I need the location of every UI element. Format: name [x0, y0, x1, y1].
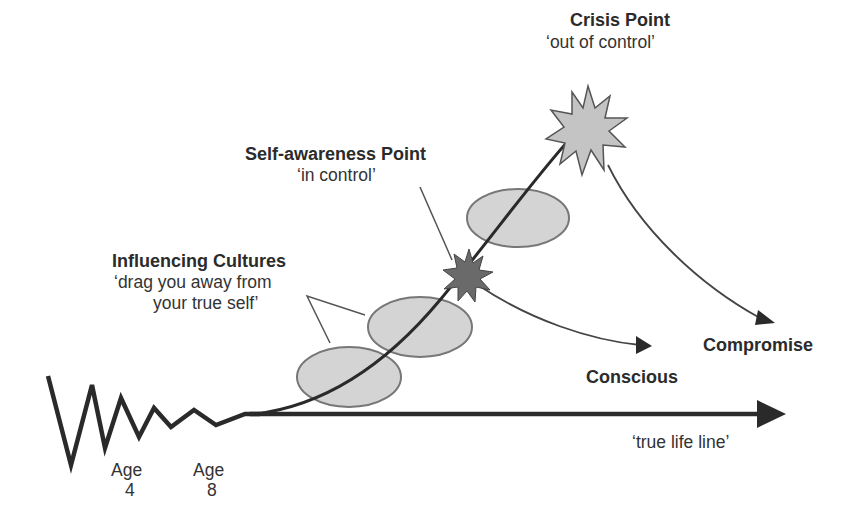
conscious-arrowhead	[636, 336, 652, 354]
compromise-branch-arrow	[608, 165, 760, 318]
true-life-line-label: ‘true life line’	[632, 433, 729, 453]
age-4-label-word: Age	[111, 461, 142, 481]
influencing-cultures-subtitle-line1: ‘drag you away from	[114, 273, 272, 293]
influence-ellipse-upper	[467, 189, 569, 247]
age-8-label-word: Age	[193, 461, 224, 481]
influencing-cultures-subtitle-line2: your true self’	[153, 294, 258, 314]
influence-ellipse-middle	[368, 297, 472, 357]
crisis-star-icon	[546, 86, 627, 175]
self-awareness-point-subtitle: ‘in control’	[297, 166, 376, 186]
compromise-arrowhead	[755, 310, 775, 325]
influencing-cultures-title: Influencing Cultures	[112, 251, 286, 271]
conscious-label: Conscious	[586, 367, 678, 387]
self-awareness-point-title: Self-awareness Point	[245, 144, 426, 164]
age-4-label-number: 4	[125, 481, 135, 501]
crisis-point-title: Crisis Point	[570, 10, 670, 30]
self-awareness-pointer-line	[420, 187, 452, 260]
conscious-branch-arrow	[478, 285, 640, 345]
influence-pointer-lines	[307, 296, 365, 343]
compromise-label: Compromise	[703, 335, 813, 355]
age-8-label-number: 8	[207, 481, 217, 501]
crisis-point-subtitle: ‘out of control’	[546, 33, 655, 53]
true-life-line-arrowhead	[757, 400, 786, 428]
early-life-zigzag	[48, 376, 260, 465]
